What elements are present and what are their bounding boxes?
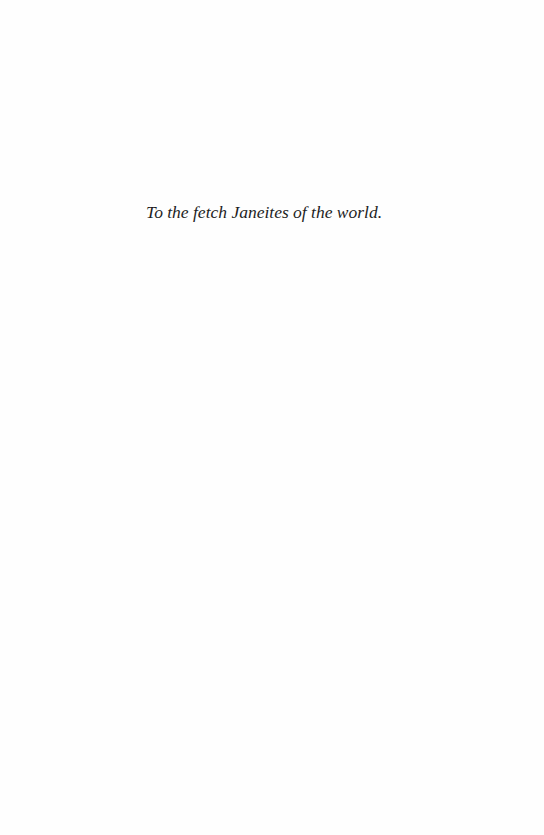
dedication-text: To the fetch Janeites of the world. bbox=[146, 201, 382, 223]
book-page: To the fetch Janeites of the world. bbox=[0, 0, 544, 835]
